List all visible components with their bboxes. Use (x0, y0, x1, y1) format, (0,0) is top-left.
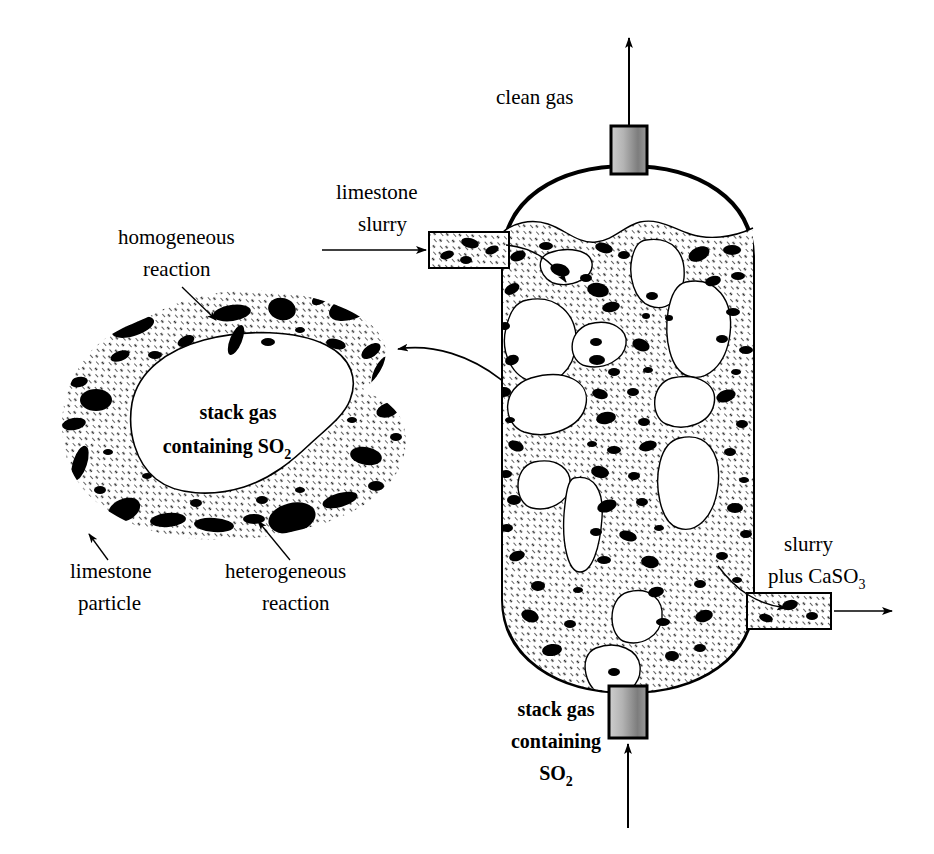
diagram-canvas: stack gas containing SO2 homogeneous rea… (0, 0, 934, 854)
outlet-pipe-fill (748, 594, 830, 628)
callout-heterogeneous-line2: reaction (262, 591, 330, 615)
slurry-outlet-label-line1: slurry (784, 532, 833, 556)
stack-gas-inlet-nozzle (609, 686, 647, 738)
limestone-slurry-label-line1: limestone (336, 180, 418, 204)
detail-center-label-line1: stack gas (199, 401, 276, 424)
inlet-pipe-fill (430, 233, 508, 267)
callout-heterogeneous-line1: heterogeneous (225, 559, 346, 583)
clean-gas-nozzle (611, 126, 647, 174)
scrubber-vessel: clean gas limestone slurry (322, 38, 892, 828)
callout-homogeneous-line2: reaction (143, 257, 211, 281)
magnified-bubble-detail: stack gas containing SO2 homogeneous rea… (61, 225, 406, 615)
slurry-outlet-label-line2: plus CaSO3 (768, 564, 865, 592)
callout-limestone-particle-line2: particle (78, 591, 141, 615)
stack-gas-inlet-label-line3: SO2 (539, 762, 573, 789)
stack-gas-inlet-label-line1: stack gas (517, 698, 594, 721)
callout-limestone-particle-line1: limestone (70, 559, 152, 583)
limestone-slurry-label-line2: slurry (358, 212, 407, 236)
callout-homogeneous-line1: homogeneous (118, 225, 235, 249)
callout-limestone-particle-leader (89, 534, 108, 560)
clean-gas-label: clean gas (496, 85, 574, 109)
stack-gas-inlet-label-line2: containing (511, 730, 601, 753)
